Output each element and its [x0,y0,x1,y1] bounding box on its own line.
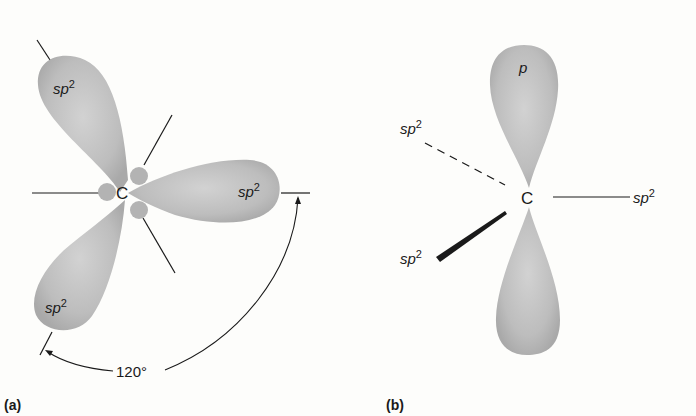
panel-label-a: (a) [4,397,21,413]
sp2-lobe-upper-left [38,56,128,192]
bond-line-upper-right [144,115,172,165]
arrowhead-up-icon [295,196,301,204]
bond-line-lower-right [143,218,175,273]
carbon-atom-label-b: C [521,189,533,208]
sp2-label-wedge: sp2 [400,248,422,267]
p-orbital-lobe-bottom [496,207,560,355]
angle-arc [165,198,298,370]
carbon-atom-label-a: C [116,184,128,203]
sp2-label-dashed: sp2 [400,118,422,137]
arrowhead-left-icon [45,350,53,356]
bond-line-upper-left [37,40,52,63]
panel-a: C sp2 sp2 sp2 120° (a) [4,40,310,413]
wedge-bond [436,211,507,262]
p-orbital-label: p [518,59,527,76]
angle-label: 120° [116,363,147,380]
panel-label-b: (b) [386,397,404,413]
hybrid-orbital-diagram: C sp2 sp2 sp2 120° (a) p sp2 sp2 sp2 C (… [0,0,696,416]
panel-b: p sp2 sp2 sp2 C (b) [386,45,655,413]
angle-arc-left [48,352,113,371]
sp2-label-solid: sp2 [633,187,655,206]
dashed-bond [425,143,505,185]
